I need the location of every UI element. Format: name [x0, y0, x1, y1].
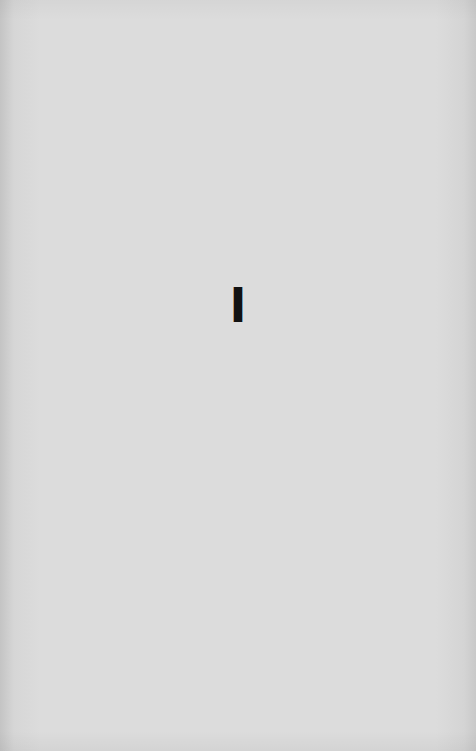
part-numeral: I: [227, 279, 250, 331]
book-page: I: [0, 0, 476, 751]
